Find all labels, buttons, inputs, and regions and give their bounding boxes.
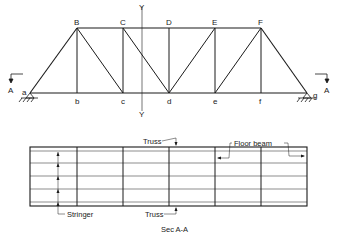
section-marker-left	[9, 74, 23, 83]
node-label-b: b	[75, 97, 80, 106]
diagonal-eF	[215, 28, 261, 93]
diagonal-Cd	[123, 28, 169, 93]
axis-label-y-top: Y	[139, 3, 145, 12]
node-label-B: B	[74, 18, 79, 27]
truss-bridge-diagram: B C D E F a b c d e f g Y Y A A Stringer	[0, 0, 341, 240]
node-label-d: d	[167, 97, 171, 106]
truss-top-label: Truss	[143, 137, 162, 146]
node-label-E: E	[212, 18, 217, 27]
floor-beam-leader-left	[218, 143, 232, 158]
section-label-right: A	[324, 86, 330, 95]
node-label-f: f	[259, 97, 262, 106]
node-label-C: C	[120, 18, 126, 27]
diagonal-Bc	[77, 28, 123, 93]
truss-top-leader	[162, 138, 176, 145]
diagonal-dE	[169, 28, 215, 93]
node-label-D: D	[166, 18, 172, 27]
truss-bottom-leader	[164, 208, 176, 214]
stringer-leader	[58, 209, 65, 214]
node-label-e: e	[213, 97, 218, 106]
node-label-F: F	[258, 18, 263, 27]
axis-label-y-bottom: Y	[139, 110, 145, 119]
section-marker-right	[315, 74, 329, 83]
floor-beam-label: Floor beam	[234, 139, 272, 148]
section-caption: Sec A-A	[161, 225, 188, 234]
node-label-c: c	[121, 97, 125, 106]
end-post-left	[30, 28, 77, 93]
node-label-a: a	[22, 88, 27, 97]
plan-section	[30, 147, 307, 209]
end-post-right	[261, 28, 307, 93]
truss-bottom-label: Truss	[145, 210, 164, 219]
floor-beam-leader-right	[284, 143, 304, 156]
node-label-g: g	[313, 91, 317, 100]
section-label-left: A	[8, 86, 14, 95]
stringer-label: Stringer	[67, 210, 94, 219]
